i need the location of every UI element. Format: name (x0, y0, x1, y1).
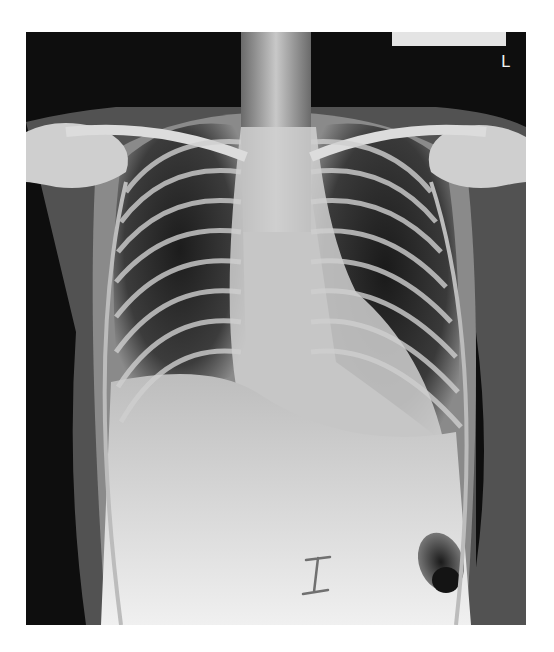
handwritten-mark (298, 552, 338, 602)
xray-film: L (26, 32, 526, 625)
marker-tab (392, 32, 506, 46)
xray-anatomy (26, 32, 526, 625)
side-marker-label: L (501, 54, 510, 70)
